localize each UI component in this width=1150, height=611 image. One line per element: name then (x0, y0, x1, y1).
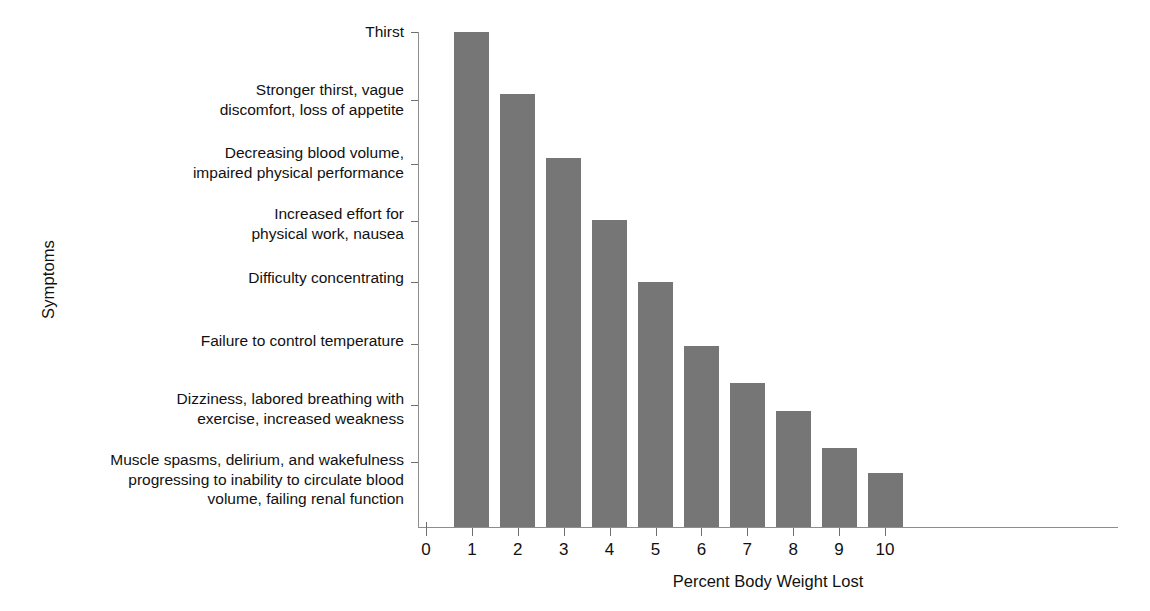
x-axis-tick-label: 0 (404, 540, 448, 560)
y-axis-tick (411, 462, 418, 463)
bar (776, 411, 811, 527)
y-category-line: exercise, increased weakness (12, 409, 404, 429)
y-axis-tick (411, 282, 418, 283)
bar (500, 94, 535, 527)
y-axis-category-labels: Thirst Stronger thirst, vague discomfort… (0, 0, 412, 540)
y-category-line: physical work, nausea (12, 224, 404, 244)
x-axis-tick-label: 5 (634, 540, 678, 560)
y-category-line: Difficulty concentrating (12, 268, 404, 288)
bar (868, 473, 903, 527)
y-category-line: volume, failing renal function (12, 489, 404, 509)
x-axis-tick (839, 528, 840, 536)
x-axis-tick (472, 528, 473, 536)
x-axis-tick (610, 528, 611, 536)
bar (592, 220, 627, 527)
x-axis-tick-label: 10 (863, 540, 907, 560)
y-axis-tick (411, 344, 418, 345)
y-category-label-7: Muscle spasms, delirium, and wakefulness… (12, 450, 412, 509)
x-axis-tick-label: 1 (450, 540, 494, 560)
x-axis-title: Percent Body Weight Lost (418, 572, 1118, 591)
y-category-line: discomfort, loss of appetite (12, 100, 404, 120)
x-axis-tick-label: 3 (542, 540, 586, 560)
y-category-label-2: Decreasing blood volume, impaired physic… (12, 143, 412, 182)
x-axis-tick (426, 522, 427, 536)
y-category-line: Decreasing blood volume, (12, 143, 404, 163)
y-category-line: Stronger thirst, vague (12, 80, 404, 100)
y-category-label-3: Increased effort for physical work, naus… (12, 204, 412, 243)
x-axis-tick-label: 6 (679, 540, 723, 560)
y-category-line: Muscle spasms, delirium, and wakefulness (12, 450, 404, 470)
bar (684, 346, 719, 527)
x-axis-tick (701, 528, 702, 536)
x-axis-tick-label: 9 (817, 540, 861, 560)
x-axis-spine (418, 527, 1118, 528)
y-category-label-1: Stronger thirst, vague discomfort, loss … (12, 80, 412, 119)
x-axis-tick-label: 8 (771, 540, 815, 560)
x-axis-tick (793, 528, 794, 536)
y-category-line: impaired physical performance (12, 163, 404, 183)
bar (822, 448, 857, 527)
y-category-line: Failure to control temperature (12, 331, 404, 351)
y-category-label-0: Thirst (12, 22, 412, 42)
x-axis-tick (747, 528, 748, 536)
x-axis-tick (518, 528, 519, 536)
y-axis-tick (411, 164, 418, 165)
y-category-label-6: Dizziness, labored breathing with exerci… (12, 389, 412, 428)
y-axis-tick (411, 405, 418, 406)
y-category-label-5: Failure to control temperature (12, 331, 412, 351)
y-category-line: progressing to inability to circulate bl… (12, 470, 404, 490)
x-axis-tick-label: 7 (725, 540, 769, 560)
plot-area: 012345678910 (418, 10, 1118, 530)
x-axis-tick-label: 4 (588, 540, 632, 560)
y-category-line: Dizziness, labored breathing with (12, 389, 404, 409)
y-axis-tick (411, 32, 418, 33)
bar (730, 383, 765, 527)
y-category-line: Thirst (12, 22, 404, 42)
bar (546, 158, 581, 527)
bar (454, 32, 489, 527)
bar (638, 282, 673, 527)
y-axis-tick (411, 221, 418, 222)
x-axis-tick (656, 528, 657, 536)
page-edge (0, 605, 1150, 611)
x-axis-tick (885, 528, 886, 536)
bar-series (418, 10, 1118, 527)
x-axis-tick (564, 528, 565, 536)
y-axis-tick (411, 100, 418, 101)
bar-chart-figure: Symptoms Thirst Stronger thirst, vague d… (0, 0, 1150, 611)
y-category-label-4: Difficulty concentrating (12, 268, 412, 288)
y-category-line: Increased effort for (12, 204, 404, 224)
x-axis-tick-label: 2 (496, 540, 540, 560)
